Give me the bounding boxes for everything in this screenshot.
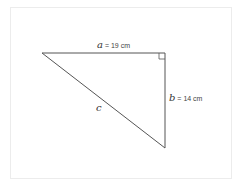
- side-c-label: c: [96, 102, 102, 113]
- side-a-label: a = 19 cm: [97, 39, 130, 50]
- side-b-label: b = 14 cm: [169, 92, 203, 103]
- side-b-value: 14 cm: [183, 95, 202, 102]
- side-a-equals: =: [103, 42, 111, 49]
- side-a-value: 19 cm: [111, 42, 130, 49]
- right-angle-marker: [159, 53, 165, 59]
- triangle-diagram: a = 19 cm b = 14 cm c: [0, 0, 238, 180]
- side-b-equals: =: [175, 95, 183, 102]
- side-c-hypotenuse: [42, 53, 165, 148]
